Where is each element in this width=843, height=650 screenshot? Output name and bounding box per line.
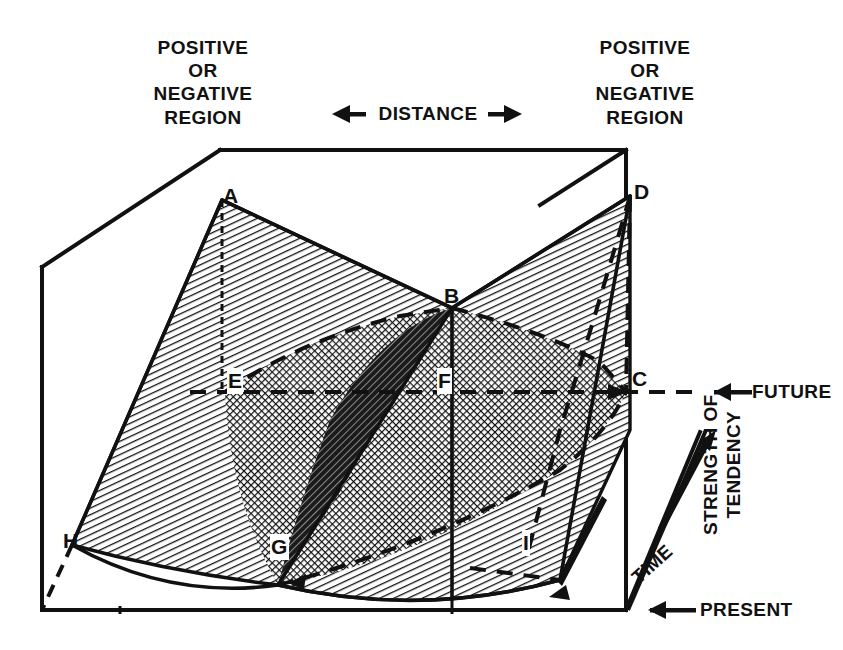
time-arrow-down	[549, 585, 570, 600]
vertex-label-D: D	[633, 179, 651, 205]
vertex-label-A: A	[222, 183, 240, 209]
time-axis-label: TIME	[604, 548, 674, 618]
distance-axis-label: DISTANCE	[366, 102, 490, 125]
dashed-H-corner	[42, 545, 72, 610]
vertex-label-I: I	[522, 530, 530, 556]
vertex-label-H: H	[62, 528, 80, 554]
future-label: FUTURE	[752, 380, 831, 403]
vertex-label-F: F	[437, 368, 452, 394]
vertex-label-E: E	[227, 368, 243, 394]
strength-of-tendency-text: STRENGTH OF TENDENCY	[699, 395, 745, 536]
right-region-caption: POSITIVE OR NEGATIVE REGION	[560, 36, 730, 129]
vertex-label-G: G	[270, 534, 289, 560]
frame-left-diagonal	[42, 150, 220, 267]
present-label: PRESENT	[700, 598, 793, 621]
distance-arrow-left-head	[332, 105, 350, 123]
frame-right-diagonal-top	[540, 150, 626, 205]
distance-arrow-right-head	[504, 105, 522, 123]
time-axis-text: TIME	[627, 540, 677, 589]
vertex-label-B: B	[443, 283, 461, 309]
vertex-label-C: C	[631, 366, 649, 392]
left-region-caption: POSITIVE OR NEGATIVE REGION	[118, 36, 288, 129]
strength-of-tendency-axis-label: STRENGTH OF TENDENCY	[676, 512, 839, 605]
figure-canvas: POSITIVE OR NEGATIVE REGION POSITIVE OR …	[0, 0, 843, 650]
